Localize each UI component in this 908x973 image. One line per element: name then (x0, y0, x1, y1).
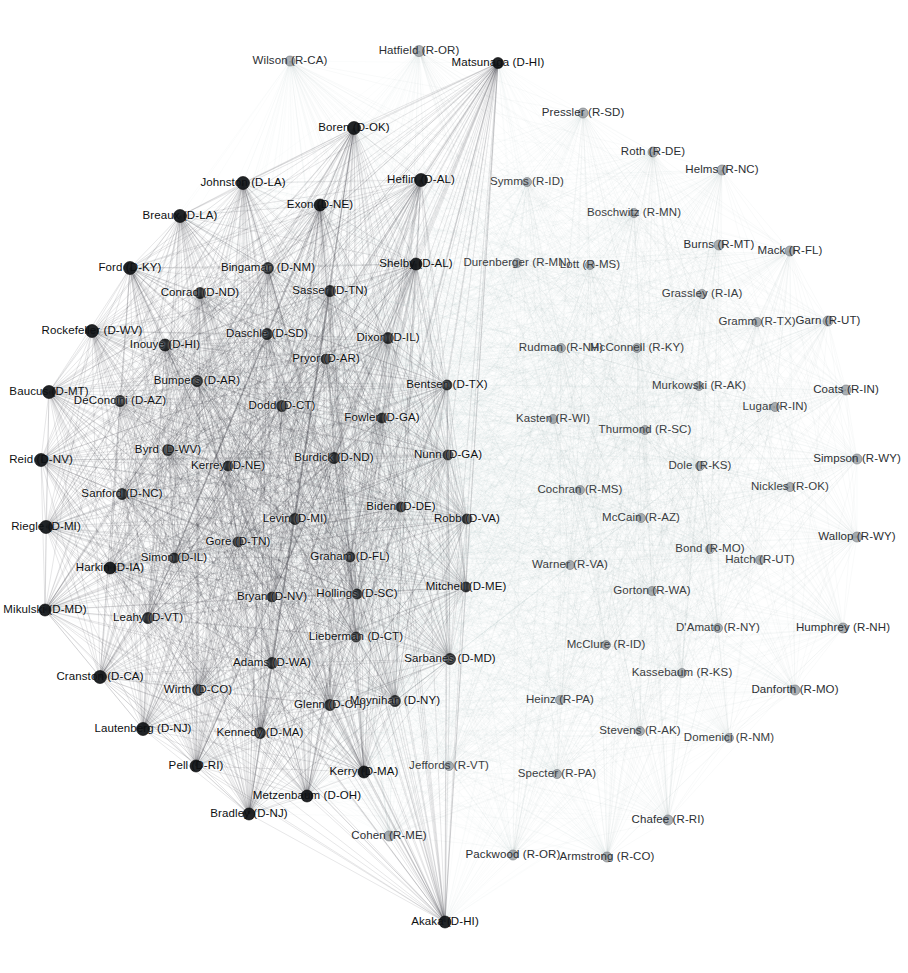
graph-node[interactable] (195, 288, 206, 299)
graph-node[interactable] (637, 514, 646, 523)
graph-node[interactable] (461, 582, 471, 592)
graph-node[interactable] (163, 445, 174, 456)
graph-node[interactable] (277, 401, 288, 412)
graph-node[interactable] (35, 454, 48, 467)
graph-node[interactable] (698, 290, 707, 299)
graph-node[interactable] (725, 734, 734, 743)
graph-node[interactable] (262, 329, 273, 340)
graph-node[interactable] (695, 382, 704, 391)
graph-node[interactable] (137, 723, 150, 736)
graph-node[interactable] (314, 199, 326, 211)
graph-node[interactable] (325, 286, 336, 297)
graph-node[interactable] (192, 376, 203, 387)
graph-node[interactable] (578, 108, 588, 118)
graph-node[interactable] (345, 552, 355, 562)
graph-node[interactable] (358, 766, 370, 778)
graph-node[interactable] (576, 486, 585, 495)
graph-node[interactable] (439, 916, 451, 928)
graph-node[interactable] (94, 671, 107, 684)
graph-node[interactable] (255, 728, 266, 739)
graph-node[interactable] (233, 537, 243, 547)
graph-node[interactable] (442, 380, 452, 390)
graph-node[interactable] (390, 696, 401, 707)
graph-node[interactable] (159, 339, 171, 351)
graph-node[interactable] (648, 587, 657, 596)
graph-node[interactable] (706, 545, 715, 554)
graph-node[interactable] (696, 462, 705, 471)
graph-node[interactable] (753, 318, 762, 327)
graph-node[interactable] (852, 454, 862, 464)
graph-node[interactable] (557, 344, 566, 353)
graph-node[interactable] (243, 808, 255, 820)
graph-node[interactable] (641, 426, 650, 435)
graph-node[interactable] (117, 489, 128, 500)
graph-node[interactable] (301, 790, 313, 802)
graph-node[interactable] (237, 177, 250, 190)
graph-node[interactable] (267, 658, 278, 669)
graph-node[interactable] (39, 604, 51, 616)
graph-node[interactable] (717, 165, 727, 175)
graph-node[interactable] (351, 632, 361, 642)
graph-node[interactable] (785, 246, 795, 256)
graph-node[interactable] (325, 700, 336, 711)
graph-node[interactable] (384, 831, 394, 841)
graph-node[interactable] (556, 696, 565, 705)
graph-node[interactable] (602, 641, 611, 650)
graph-node[interactable] (352, 589, 362, 599)
graph-node[interactable] (714, 624, 723, 633)
graph-node[interactable] (513, 259, 522, 268)
graph-node[interactable] (86, 325, 99, 338)
graph-node[interactable] (553, 770, 562, 779)
graph-node[interactable] (348, 122, 361, 135)
graph-node[interactable] (290, 514, 301, 525)
graph-node[interactable] (493, 58, 504, 69)
graph-node[interactable] (396, 502, 406, 512)
graph-node[interactable] (523, 178, 532, 187)
graph-node[interactable] (414, 46, 425, 57)
graph-node[interactable] (285, 56, 295, 66)
graph-node[interactable] (443, 450, 453, 460)
graph-node[interactable] (267, 592, 277, 602)
graph-node[interactable] (263, 263, 274, 274)
graph-node[interactable] (143, 613, 154, 624)
graph-node[interactable] (549, 415, 558, 424)
graph-node[interactable] (415, 174, 428, 187)
graph-node[interactable] (40, 521, 53, 534)
graph-node[interactable] (169, 553, 179, 563)
graph-node[interactable] (174, 210, 187, 223)
graph-node[interactable] (104, 562, 116, 574)
graph-node[interactable] (193, 685, 204, 696)
graph-node[interactable] (329, 453, 340, 464)
graph-node[interactable] (648, 147, 658, 157)
graph-node[interactable] (223, 461, 233, 471)
graph-node[interactable] (823, 316, 833, 326)
graph-node[interactable] (43, 386, 56, 399)
graph-node[interactable] (586, 261, 595, 270)
graph-node[interactable] (190, 760, 202, 772)
graph-node[interactable] (633, 344, 642, 353)
graph-node[interactable] (678, 669, 687, 678)
graph-node[interactable] (115, 396, 126, 407)
graph-node[interactable] (771, 403, 780, 412)
graph-node[interactable] (445, 762, 454, 771)
graph-node[interactable] (630, 209, 639, 218)
graph-node[interactable] (602, 852, 612, 862)
graph-node[interactable] (663, 815, 673, 825)
graph-node[interactable] (566, 561, 575, 570)
graph-node[interactable] (445, 654, 456, 665)
graph-node[interactable] (321, 354, 331, 364)
graph-node[interactable] (838, 623, 848, 633)
graph-node[interactable] (462, 514, 472, 524)
graph-node[interactable] (383, 333, 394, 344)
graph-node[interactable] (841, 385, 851, 395)
graph-node[interactable] (124, 262, 137, 275)
graph-node[interactable] (714, 240, 724, 250)
graph-node[interactable] (636, 727, 645, 736)
graph-node[interactable] (852, 532, 862, 542)
graph-node[interactable] (786, 483, 795, 492)
graph-node[interactable] (756, 556, 765, 565)
graph-node[interactable] (410, 258, 422, 270)
graph-node[interactable] (790, 685, 800, 695)
graph-node[interactable] (377, 413, 387, 423)
graph-node[interactable] (508, 850, 518, 860)
